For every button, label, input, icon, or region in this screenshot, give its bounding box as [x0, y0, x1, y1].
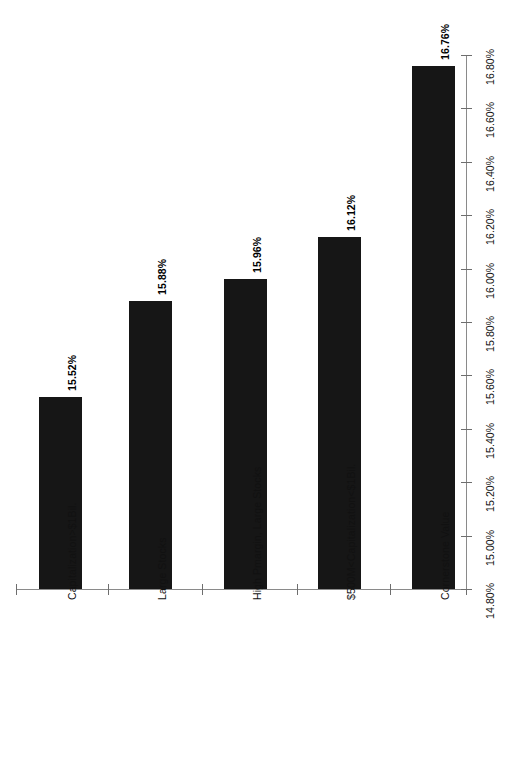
value-axis-tick [461, 55, 472, 56]
value-axis-tick [461, 429, 472, 430]
value-axis-tick-label: 16.20% [484, 209, 496, 245]
value-axis-tick-label: 16.80% [484, 49, 496, 85]
value-axis-tick [461, 322, 472, 323]
value-axis-tick-label: 16.00% [484, 262, 496, 298]
bar-value-label: 16.76% [439, 23, 451, 59]
value-axis-tick-label: 16.60% [484, 102, 496, 138]
value-axis-tick-label: 15.20% [484, 476, 496, 512]
bar-value-label: 15.96% [251, 237, 263, 273]
category-label: High Pmargin, Large Stocks [251, 467, 263, 600]
value-axis-tick [461, 536, 472, 537]
category-axis-tick [202, 584, 203, 595]
bar [412, 66, 455, 589]
value-axis-tick-label: 15.00% [484, 529, 496, 565]
value-axis-tick [461, 375, 472, 376]
category-label: $500M<Capitalization<$1Bil. [345, 464, 357, 600]
value-axis-tick-label: 15.80% [484, 316, 496, 352]
category-label: Large Stocks [156, 538, 168, 600]
category-axis-tick [390, 584, 391, 595]
category-axis-tick [16, 584, 17, 595]
category-label: Capitalization>$1Bil. [66, 502, 78, 600]
value-axis-tick [461, 108, 472, 109]
bar-chart-figure: 15.52%15.88%15.96%16.12%16.76% Capitaliz… [0, 0, 509, 770]
category-label: Cornerstone Value [439, 512, 451, 600]
value-axis-tick [461, 215, 472, 216]
plot-area: 15.52%15.88%15.96%16.12%16.76% Capitaliz… [0, 0, 509, 770]
value-axis-tick [461, 162, 472, 163]
category-axis-tick [297, 584, 298, 595]
value-axis-tick-label: 16.40% [484, 156, 496, 192]
category-axis-tick [108, 584, 109, 595]
category-axis-line [16, 589, 466, 590]
value-axis-tick-label: 15.40% [484, 423, 496, 459]
value-axis-tick-label: 14.80% [484, 583, 496, 619]
bar-value-label: 16.12% [345, 194, 357, 230]
value-axis-tick [461, 589, 472, 590]
value-axis-tick [461, 482, 472, 483]
bar-value-label: 15.52% [66, 355, 78, 391]
value-axis-tick-label: 15.60% [484, 369, 496, 405]
bar-value-label: 15.88% [156, 258, 168, 294]
value-axis-tick [461, 269, 472, 270]
